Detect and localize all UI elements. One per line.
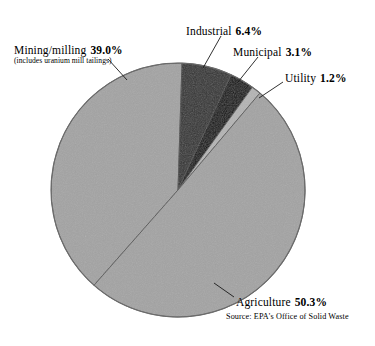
pie-label-utility-name: Utility — [285, 72, 316, 84]
pie-label-industrial-name: Industrial — [186, 25, 232, 37]
pie-label-municipal-value: 3.1% — [286, 46, 312, 58]
leader-line-utility — [259, 82, 283, 98]
pie-label-municipal: Municipal3.1% — [233, 42, 312, 60]
chart-source-note: Source: EPA's Office of Solid Waste — [226, 312, 349, 321]
pie-chart-figure: Mining/milling39.0% (includes uranium mi… — [0, 0, 375, 346]
pie-label-agriculture-value: 50.3% — [295, 296, 327, 308]
pie-label-municipal-name: Municipal — [233, 46, 282, 58]
pie-label-agriculture: Agriculture50.3% — [236, 292, 327, 310]
leader-line-municipal — [238, 57, 258, 82]
leader-line-industrial — [203, 36, 221, 68]
pie-label-mining-milling: Mining/milling39.0% (includes uranium mi… — [14, 40, 123, 66]
pie-label-utility: Utility1.2% — [285, 68, 347, 86]
pie-label-agriculture-name: Agriculture — [236, 296, 291, 308]
pie-label-utility-value: 1.2% — [320, 72, 346, 84]
pie-label-industrial-value: 6.4% — [236, 25, 262, 37]
pie-label-mining-milling-note: (includes uranium mill tailings) — [14, 57, 123, 66]
pie-label-industrial: Industrial6.4% — [186, 21, 262, 39]
pie-label-mining-milling-value: 39.0% — [90, 44, 122, 56]
pie-label-mining-milling-name: Mining/milling — [14, 44, 86, 56]
pie-slices-group — [51, 63, 305, 317]
